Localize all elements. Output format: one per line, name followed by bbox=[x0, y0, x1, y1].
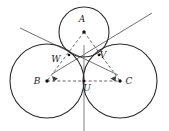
label-c: C bbox=[126, 76, 133, 86]
tangent-dot-u bbox=[83, 80, 86, 83]
label-u: U bbox=[83, 83, 91, 93]
center-dot-b bbox=[45, 79, 48, 82]
figure-canvas: A B C W V U bbox=[0, 0, 169, 131]
label-a: A bbox=[78, 14, 86, 24]
geometry-figure: A B C W V U bbox=[0, 0, 169, 131]
tangent-dot-w bbox=[68, 54, 71, 57]
center-dot-a bbox=[82, 30, 85, 33]
label-w: W bbox=[51, 54, 61, 64]
center-dot-c bbox=[118, 79, 121, 82]
label-b: B bbox=[33, 76, 41, 86]
